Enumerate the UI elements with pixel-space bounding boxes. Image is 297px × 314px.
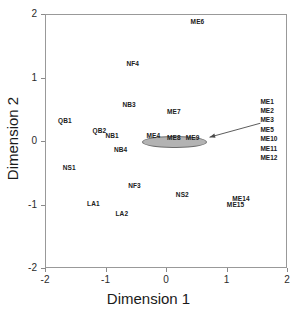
y-tick-mark — [41, 141, 45, 142]
y-tick-label: -1 — [21, 199, 37, 210]
x-tick-label: 2 — [277, 274, 297, 285]
x-tick-mark — [227, 268, 228, 272]
y-tick-label: 1 — [21, 72, 37, 83]
x-tick-label: -2 — [35, 274, 55, 285]
data-point-label: QB2 — [93, 126, 107, 133]
x-tick-label: 1 — [217, 274, 237, 285]
x-tick-mark — [106, 268, 107, 272]
data-point-label: NB1 — [105, 131, 118, 138]
x-tick-mark — [166, 268, 167, 272]
cluster-member-list: ME1ME2ME3ME5ME10ME11ME12 — [260, 97, 277, 163]
cluster-member-label: ME3 — [260, 115, 277, 124]
data-point-label: ME8 — [167, 133, 181, 140]
x-tick-label: 0 — [156, 274, 176, 285]
data-point-label: ME7 — [167, 108, 181, 115]
cluster-member-label: ME1 — [260, 97, 277, 106]
x-tick-mark — [45, 268, 46, 272]
data-point-label: NB3 — [122, 101, 135, 108]
cluster-member-label: ME5 — [260, 125, 277, 134]
y-tick-mark — [41, 78, 45, 79]
x-tick-mark — [287, 268, 288, 272]
y-tick-label: 2 — [21, 8, 37, 19]
data-point-label: ME9 — [186, 133, 200, 140]
x-tick-label: -1 — [96, 274, 116, 285]
data-point-label: ME6 — [191, 17, 205, 24]
data-point-label: NF3 — [128, 182, 141, 189]
data-point-label: NS2 — [176, 190, 189, 197]
scatter-plot-chart: ME6NF4NB3ME7QB1QB2NB1ME4ME8ME9NB4NS1NF3N… — [0, 0, 297, 314]
cluster-member-label: ME2 — [260, 106, 277, 115]
data-point-label: LA2 — [116, 210, 129, 217]
y-tick-mark — [41, 205, 45, 206]
y-tick-label: 0 — [21, 135, 37, 146]
y-tick-mark — [41, 14, 45, 15]
cluster-member-label: ME12 — [260, 153, 277, 162]
data-point-label: NF4 — [126, 59, 139, 66]
data-point-label: LA1 — [87, 199, 100, 206]
y-tick-label: -2 — [21, 262, 37, 273]
data-point-label: ME15 — [227, 200, 244, 207]
cluster-member-label: ME10 — [260, 134, 277, 143]
data-point-label: NS1 — [63, 164, 76, 171]
x-axis-title: Dimension 1 — [0, 290, 297, 307]
cluster-member-label: ME11 — [260, 144, 277, 153]
y-tick-mark — [41, 268, 45, 269]
data-point-label: QB1 — [58, 117, 72, 124]
y-axis-title: Dimension 2 — [4, 69, 21, 209]
data-point-label: NB4 — [114, 145, 127, 152]
data-point-label: ME4 — [146, 132, 160, 139]
